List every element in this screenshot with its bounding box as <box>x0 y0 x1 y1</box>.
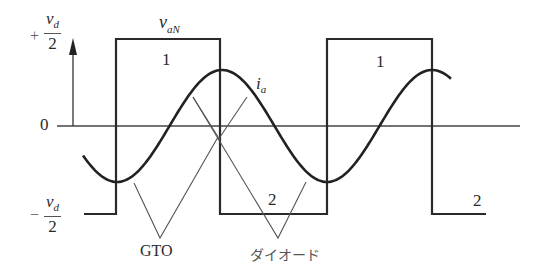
vaN-name: v <box>159 12 167 32</box>
zero-label: 0 <box>40 115 49 135</box>
bottom-numerator: v <box>46 192 54 211</box>
bottom-numerator-sub: d <box>54 201 60 213</box>
plus-sign: + <box>30 27 39 45</box>
top-level-label: vd 2 <box>44 10 61 54</box>
waveform-diagram <box>0 0 544 277</box>
segment-label-lower-1: 2 <box>268 190 277 210</box>
vaN-label: vaN <box>159 12 180 35</box>
diode-label: ダイオード <box>250 244 320 264</box>
gto-label: GTO <box>140 242 173 260</box>
arrow-head-icon <box>69 38 77 55</box>
ia-sub: a <box>261 83 267 95</box>
bottom-denominator: 2 <box>44 217 61 237</box>
gto-pointer-lines <box>134 137 218 238</box>
segment-label-lower-2: 2 <box>473 191 482 211</box>
vaN-sub: aN <box>167 23 180 35</box>
segment-label-upper-1: 1 <box>162 50 171 70</box>
minus-sign: − <box>30 206 39 224</box>
ia-label: ia <box>256 74 266 95</box>
segment-label-upper-2: 1 <box>376 52 385 72</box>
top-denominator: 2 <box>44 34 61 54</box>
top-numerator: v <box>46 9 54 28</box>
diode-pointer-lines <box>193 97 306 238</box>
diode-pointer-upper <box>193 97 220 140</box>
bottom-level-label: vd 2 <box>44 193 61 237</box>
gto-pointer-upper <box>218 97 247 140</box>
top-numerator-sub: d <box>54 18 60 30</box>
